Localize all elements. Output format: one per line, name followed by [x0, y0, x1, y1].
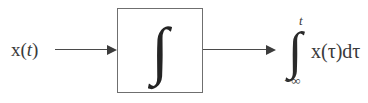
definite-integral-group: t ∫ −∞ — [288, 14, 310, 88]
input-function-name: x — [11, 39, 21, 60]
input-close-paren: ) — [32, 39, 38, 60]
arrow-head-icon — [266, 45, 276, 55]
integrand-expression: x(τ)dτ — [311, 38, 360, 64]
integral-sign-icon: ∫ — [288, 25, 302, 77]
arrow-shaft — [55, 49, 108, 50]
output-signal-arrow — [203, 43, 276, 57]
integral-lower-limit: −∞ — [284, 74, 301, 88]
input-signal-label: x(t) — [11, 36, 38, 64]
input-signal-arrow — [55, 43, 117, 57]
integrator-block-diagram: x(t) ∫ t ∫ −∞ x(τ)dτ — [0, 0, 368, 103]
output-signal-expression: t ∫ −∞ x(τ)dτ — [288, 14, 360, 88]
integrator-block: ∫ — [117, 8, 203, 93]
arrow-shaft — [203, 49, 267, 50]
integral-sign-icon: ∫ — [118, 19, 202, 83]
arrow-head-icon — [107, 45, 117, 55]
